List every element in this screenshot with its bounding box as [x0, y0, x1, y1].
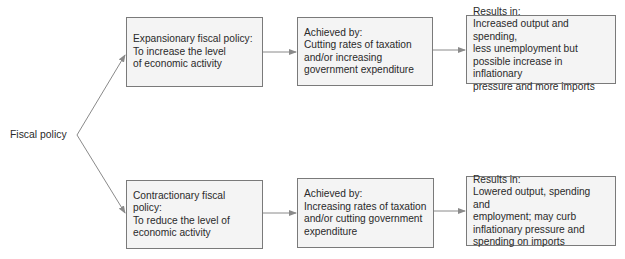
box-expansionary-policy: Expansionary fiscal policy: To increase … [126, 17, 263, 87]
box-expansionary-method: Achieved by: Cutting rates of taxation a… [297, 17, 433, 86]
box-title: Achieved by: [304, 188, 427, 201]
box-line: Cutting rates of taxation [304, 39, 426, 52]
box-line: expenditure [304, 226, 427, 239]
box-line: employment; may curb [473, 211, 609, 224]
box-line: and/or increasing [304, 52, 426, 65]
box-line: inflationary pressure and [473, 224, 609, 237]
arrow-root-to-contractionary [77, 135, 125, 213]
box-line: less unemployment but [473, 43, 609, 56]
box-expansionary-result: Results in: Increased output and spendin… [466, 15, 616, 84]
box-line: pressure and more imports [473, 81, 609, 94]
box-line: Increased output and spending, [473, 18, 609, 43]
box-title: Expansionary fiscal policy: [133, 33, 256, 46]
box-line: Lowered output, spending and [473, 186, 609, 211]
box-title: Results in: [473, 6, 609, 19]
root-node-fiscal-policy: Fiscal policy [10, 129, 67, 140]
box-line: government expenditure [304, 64, 426, 77]
box-line: of economic activity [133, 58, 256, 71]
box-line: Increasing rates of taxation [304, 201, 427, 214]
box-contractionary-result: Results in: Lowered output, spending and… [466, 176, 616, 246]
box-line: spending on imports [473, 236, 609, 249]
box-contractionary-policy: Contractionary fiscal policy: To reduce … [126, 180, 263, 249]
box-line: possible increase in inflationary [473, 56, 609, 81]
box-line: and/or cutting government [304, 213, 427, 226]
box-line: To increase the level [133, 46, 256, 59]
box-line: To reduce the level of [133, 215, 256, 228]
box-title: Contractionary fiscal policy: [133, 190, 256, 215]
arrow-root-to-expansionary [77, 55, 125, 135]
box-line: economic activity [133, 227, 256, 240]
box-title: Achieved by: [304, 27, 426, 40]
box-contractionary-method: Achieved by: Increasing rates of taxatio… [297, 178, 434, 248]
box-title: Results in: [473, 174, 609, 187]
